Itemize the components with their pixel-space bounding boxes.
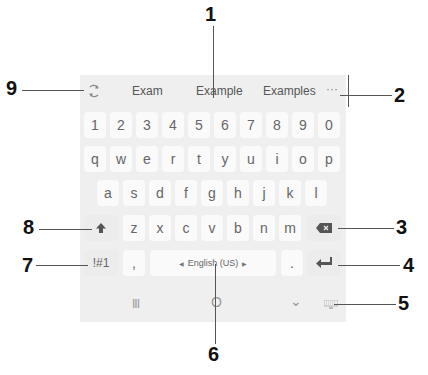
callout-line-8 [39,229,92,230]
key-t[interactable]: t [188,146,210,172]
callout-1: 1 [205,3,216,26]
key-4[interactable]: 4 [162,112,184,138]
key-a[interactable]: a [97,180,119,206]
key-f[interactable]: f [175,180,197,206]
key-q[interactable]: q [84,146,106,172]
key-2[interactable]: 2 [110,112,132,138]
key-c[interactable]: c [175,215,197,241]
rotate-icon [86,83,102,99]
key-u[interactable]: u [240,146,262,172]
key-o[interactable]: o [292,146,314,172]
backspace-key[interactable] [307,215,341,241]
callout-line-2a [348,75,349,107]
arrow-right-icon: ▶ [242,260,247,267]
callout-line-7 [36,265,88,266]
key-1[interactable]: 1 [84,112,106,138]
suggestion-1[interactable]: Exam [132,84,163,98]
callout-line-1 [213,26,214,98]
key-s[interactable]: s [123,180,145,206]
back-button[interactable]: ⌄ [290,293,302,309]
key-9[interactable]: 9 [292,112,314,138]
callout-5: 5 [398,292,409,315]
key-y[interactable]: y [214,146,236,172]
key-l[interactable]: l [305,180,327,206]
callout-line-3 [338,228,394,229]
key-7[interactable]: 7 [240,112,262,138]
key-w[interactable]: w [110,146,132,172]
key-0[interactable]: 0 [318,112,340,138]
key-j[interactable]: j [253,180,275,206]
comma-key[interactable]: , [123,250,145,276]
callout-7: 7 [22,254,33,277]
callout-6: 6 [208,343,219,366]
callout-line-5 [334,304,396,305]
key-6[interactable]: 6 [214,112,236,138]
key-e[interactable]: e [136,146,158,172]
more-options-button[interactable]: ··· [326,82,338,96]
callout-line-6 [215,264,216,344]
key-5[interactable]: 5 [188,112,210,138]
key-z[interactable]: z [123,215,145,241]
callout-line-9 [22,90,84,91]
callout-8: 8 [23,216,34,239]
callout-3: 3 [396,216,407,239]
enter-key[interactable] [307,250,341,276]
key-m[interactable]: m [279,215,301,241]
callout-line-4 [338,265,400,266]
space-bar[interactable]: ◀ English (US) ▶ [150,250,276,276]
callout-4: 4 [403,254,414,277]
callout-9: 9 [6,77,17,100]
backspace-icon [316,223,332,233]
key-p[interactable]: p [318,146,340,172]
recents-button[interactable]: III [132,297,139,311]
key-8[interactable]: 8 [266,112,288,138]
language-label: English (US) [188,258,239,268]
key-b[interactable]: b [227,215,249,241]
key-r[interactable]: r [162,146,184,172]
shift-key[interactable] [84,215,118,241]
shift-arrow-icon [95,222,107,234]
callout-2: 2 [394,84,405,107]
enter-icon [315,257,333,269]
suggestion-3[interactable]: Examples [263,84,316,98]
mode-toggle-button[interactable] [86,83,102,99]
symbols-key[interactable]: !#1 [84,250,118,276]
home-button[interactable]: O [211,294,222,310]
key-g[interactable]: g [201,180,223,206]
key-k[interactable]: k [279,180,301,206]
key-x[interactable]: x [149,215,171,241]
key-h[interactable]: h [227,180,249,206]
samsung-keyboard: Exam Example Examples ··· 1 2 3 4 5 6 7 … [80,75,346,322]
callout-line-2b [340,95,392,96]
key-d[interactable]: d [149,180,171,206]
suggestion-2[interactable]: Example [196,84,243,98]
key-v[interactable]: v [201,215,223,241]
arrow-left-icon: ◀ [179,260,184,267]
key-i[interactable]: i [266,146,288,172]
key-3[interactable]: 3 [136,112,158,138]
period-key[interactable]: . [281,250,303,276]
key-n[interactable]: n [253,215,275,241]
